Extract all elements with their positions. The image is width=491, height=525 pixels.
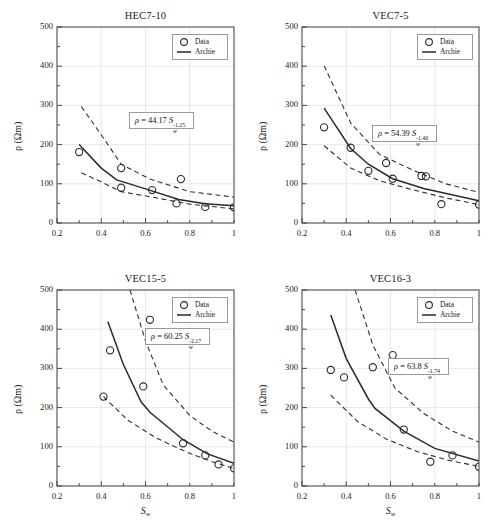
grid-lines bbox=[302, 27, 479, 223]
equation-subscript: w bbox=[428, 374, 432, 380]
archie-fit-curve bbox=[108, 322, 234, 464]
equation-equals-sign: = bbox=[400, 362, 405, 371]
x-tick-label: 0.6 bbox=[132, 228, 160, 238]
subplot-title: HEC7-10 bbox=[57, 10, 234, 21]
x-tick-label: 0.8 bbox=[176, 228, 204, 238]
data-point bbox=[340, 374, 347, 381]
grid-lines bbox=[57, 290, 234, 486]
data-point bbox=[449, 452, 456, 459]
legend-label-data: Data bbox=[440, 37, 454, 47]
y-tick-label: 300 bbox=[270, 99, 298, 109]
legend: DataArchie bbox=[417, 297, 473, 323]
y-tick-label: 500 bbox=[270, 284, 298, 294]
data-point bbox=[475, 201, 482, 208]
x-tick-label: 0.6 bbox=[377, 228, 405, 238]
y-tick-label: 100 bbox=[25, 178, 53, 188]
data-point bbox=[140, 383, 147, 390]
archie-fit-curve bbox=[324, 108, 479, 201]
data-point bbox=[118, 165, 125, 172]
plot-frame bbox=[302, 27, 479, 223]
legend-item-data: Data bbox=[421, 300, 468, 310]
x-tick-label: 0.4 bbox=[87, 228, 115, 238]
equation-exponent: -1.25 bbox=[173, 122, 185, 128]
equation-saturation-symbol: S bbox=[169, 116, 173, 125]
data-point bbox=[230, 465, 237, 472]
data-point bbox=[438, 201, 445, 208]
y-axis-label: ρ (Ωm) bbox=[12, 385, 23, 414]
circle-marker-icon bbox=[421, 37, 437, 47]
legend-label-archie: Archie bbox=[195, 47, 215, 57]
data-point bbox=[365, 167, 372, 174]
solid-line-icon bbox=[421, 310, 437, 320]
y-tick-label: 400 bbox=[25, 60, 53, 70]
lower-confidence-curve bbox=[81, 173, 234, 209]
x-tick-label: 0.4 bbox=[332, 491, 360, 501]
legend-label-data: Data bbox=[195, 37, 209, 47]
legend-item-data: Data bbox=[176, 300, 223, 310]
solid-line-icon bbox=[421, 47, 437, 57]
y-tick-label: 300 bbox=[25, 99, 53, 109]
grid-lines bbox=[57, 27, 234, 223]
x-tick-label: 0.2 bbox=[43, 228, 71, 238]
upper-confidence-curve bbox=[130, 290, 234, 442]
data-point bbox=[400, 426, 407, 433]
y-tick-label: 200 bbox=[25, 139, 53, 149]
legend: DataArchie bbox=[172, 34, 228, 60]
legend-item-data: Data bbox=[176, 37, 223, 47]
x-tick-label: 0.4 bbox=[87, 491, 115, 501]
legend-label-archie: Archie bbox=[440, 47, 460, 57]
x-tick-label: 1 bbox=[465, 491, 491, 501]
data-point bbox=[382, 159, 389, 166]
x-tick-label: 0.2 bbox=[43, 491, 71, 501]
equation-rho-symbol: ρ bbox=[151, 332, 155, 341]
legend-label-data: Data bbox=[440, 300, 454, 310]
equation-annotation: ρ = 63.8 S-1.74w bbox=[388, 358, 449, 375]
axis-ticks bbox=[57, 27, 234, 223]
equation-annotation: ρ = 60.25 S-2.17w bbox=[145, 328, 210, 345]
data-point bbox=[389, 351, 396, 358]
legend-item-data: Data bbox=[421, 37, 468, 47]
equation-annotation: ρ = 44.17 S-1.25w bbox=[129, 112, 194, 129]
data-point bbox=[100, 393, 107, 400]
data-point bbox=[180, 440, 187, 447]
legend-item-archie: Archie bbox=[176, 47, 223, 57]
data-point bbox=[327, 366, 334, 373]
y-tick-label: 500 bbox=[25, 21, 53, 31]
x-tick-label: 0.6 bbox=[132, 491, 160, 501]
x-axis-label-symbol: S bbox=[141, 505, 146, 516]
y-tick-label: 400 bbox=[270, 323, 298, 333]
solid-line-icon bbox=[176, 47, 192, 57]
data-point bbox=[369, 364, 376, 371]
upper-confidence-curve bbox=[355, 290, 479, 442]
plot-frame bbox=[57, 290, 234, 486]
data-point bbox=[76, 148, 83, 155]
y-tick-label: 300 bbox=[270, 362, 298, 372]
equation-rho-symbol: ρ bbox=[135, 116, 139, 125]
equation-exponent: -2.17 bbox=[189, 338, 201, 344]
y-tick-label: 0 bbox=[270, 480, 298, 490]
data-point bbox=[146, 316, 153, 323]
circle-marker-icon bbox=[421, 300, 437, 310]
data-point bbox=[427, 458, 434, 465]
equation-saturation-symbol: S bbox=[412, 129, 416, 138]
x-tick-label: 1 bbox=[465, 228, 491, 238]
y-tick-label: 0 bbox=[270, 217, 298, 227]
y-axis-label: ρ (Ωm) bbox=[12, 122, 23, 151]
data-point bbox=[149, 186, 156, 193]
equation-equals-sign: = bbox=[384, 129, 389, 138]
data-point bbox=[202, 203, 209, 210]
y-tick-label: 200 bbox=[270, 139, 298, 149]
plot-canvas bbox=[0, 0, 491, 525]
equation-subscript: w bbox=[416, 141, 420, 147]
equation-coefficient: 44.17 bbox=[148, 116, 167, 125]
equation-equals-sign: = bbox=[141, 116, 146, 125]
x-axis-label: Sw bbox=[126, 505, 166, 518]
subplot-title: VEC16-3 bbox=[302, 273, 479, 284]
equation-rho-symbol: ρ bbox=[378, 129, 382, 138]
data-point bbox=[202, 452, 209, 459]
legend-item-archie: Archie bbox=[421, 310, 468, 320]
data-point bbox=[422, 173, 429, 180]
x-axis-label: Sw bbox=[371, 505, 411, 518]
equation-rho-symbol: ρ bbox=[394, 362, 398, 371]
y-tick-label: 200 bbox=[270, 402, 298, 412]
